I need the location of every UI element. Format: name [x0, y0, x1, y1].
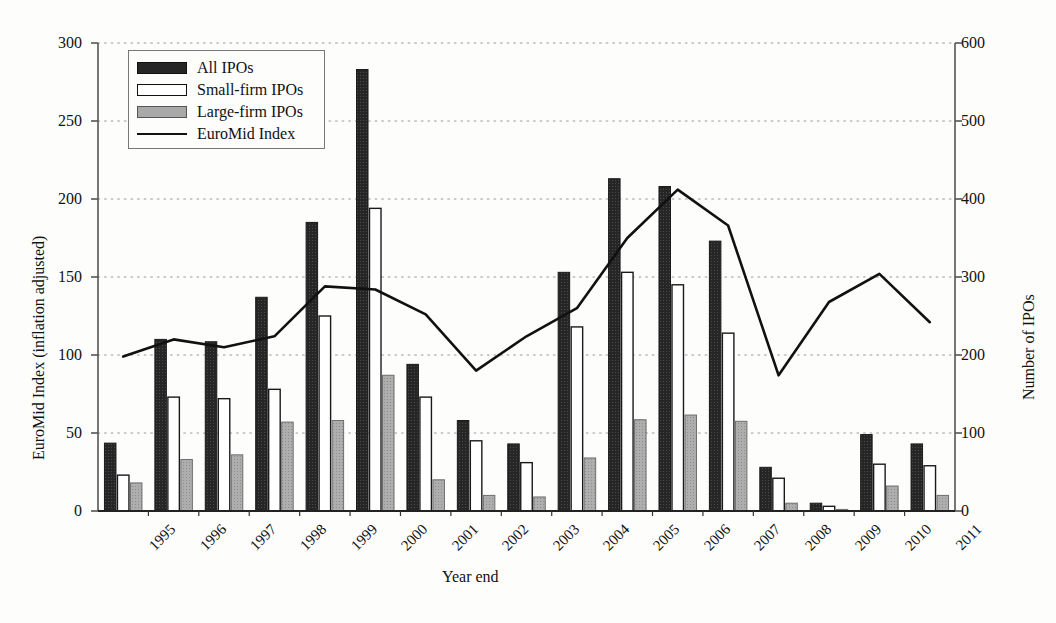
legend-item-euromid-index: EuroMid Index [137, 123, 316, 145]
line-swatch-icon [137, 133, 187, 135]
line-layer [123, 190, 930, 376]
legend-label: Large-firm IPOs [197, 104, 303, 120]
legend-label: EuroMid Index [197, 126, 295, 142]
dark-bar-swatch-icon [137, 62, 187, 74]
legend-item-large-firm-ipos: Large-firm IPOs [137, 101, 316, 123]
legend-item-small-firm-ipos: Small-firm IPOs [137, 79, 316, 101]
gray-bar-swatch-icon [137, 106, 187, 118]
legend-label: All IPOs [197, 60, 253, 76]
white-bar-swatch-icon [137, 84, 187, 96]
chart-legend: All IPOs Small-firm IPOs Large-firm IPOs… [128, 50, 325, 149]
chart-figure: EuroMid Index (inflation adjusted) Numbe… [0, 0, 1056, 623]
legend-label: Small-firm IPOs [197, 82, 303, 98]
legend-item-all-ipos: All IPOs [137, 57, 316, 79]
